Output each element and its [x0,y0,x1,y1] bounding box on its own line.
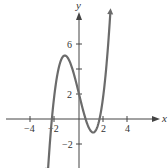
y-tick-label-2: 2 [67,89,72,100]
x-axis-arrow-icon [152,116,160,122]
x-tick-label-neg4: −4 [24,123,35,134]
cubic-function-graph: −4 −2 2 4 6 2 −2 x y [0,0,168,168]
x-tick-label-2: 2 [101,123,106,134]
curve-arrow-up-icon [107,8,113,14]
x-tick-label-neg2: −2 [48,123,59,134]
y-tick-label-6: 6 [67,39,72,50]
y-tick-label-neg2: −2 [62,139,73,150]
x-axis [6,116,160,122]
y-axis-label: y [75,0,81,11]
y-axis-arrow-icon [76,12,82,20]
x-tick-label-4: 4 [125,123,130,134]
x-axis-label: x [161,112,167,124]
